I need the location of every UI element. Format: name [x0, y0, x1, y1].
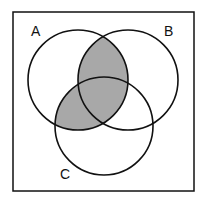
label-c: C — [60, 166, 70, 182]
label-b: B — [164, 23, 173, 39]
venn-diagram: A B C — [0, 0, 203, 197]
label-a: A — [31, 23, 41, 39]
